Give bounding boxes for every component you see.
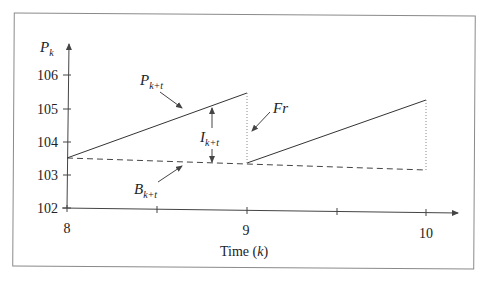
annotation-p-arrow xyxy=(160,92,182,108)
tick-y-105: 105 xyxy=(37,102,58,117)
tick-y-104: 104 xyxy=(37,135,58,150)
tick-x-10: 10 xyxy=(419,226,433,241)
x-axis xyxy=(62,208,458,213)
x-axis-label: Time (k) xyxy=(220,244,268,260)
tick-y-102: 102 xyxy=(37,201,58,216)
annotation-b-arrow xyxy=(158,166,182,182)
y-axis xyxy=(67,44,69,208)
tick-x-8: 8 xyxy=(64,221,71,236)
tick-y-106: 106 xyxy=(37,68,58,83)
annotation-p: Pk+t xyxy=(139,72,163,91)
tick-y-103: 103 xyxy=(37,168,58,183)
tick-x-9: 9 xyxy=(243,223,250,238)
annotation-fr-arrow xyxy=(252,112,270,131)
x-ticks xyxy=(67,205,426,216)
annotation-i: Ik+t xyxy=(199,129,219,148)
annotation-fr: Fr xyxy=(272,100,288,116)
chart: 106 105 104 103 102 8 9 10 Pk Time (k) P… xyxy=(0,0,493,292)
y-axis-label: Pk xyxy=(39,39,54,58)
series-p-segment-1 xyxy=(67,93,247,158)
annotation-b: Bk+t xyxy=(134,181,157,200)
